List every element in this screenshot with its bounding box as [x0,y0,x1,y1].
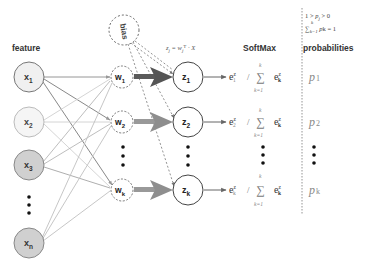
bias-node: bias [109,15,139,45]
logit-nodes: z1 z2 zk [173,62,203,205]
svg-text:k: k [259,62,262,68]
weight-nodes: w1 w2 wk [111,66,133,201]
svg-text:∑: ∑ [256,183,265,197]
probabilities-label: probabilities [303,43,354,53]
thick-arrow-icon [134,112,173,132]
ellipsis-dots-icon [121,145,125,167]
logit-node-zk: zk [173,175,203,205]
output-probabilities: p1 p2 pk [308,70,320,197]
ellipsis-dots-icon [186,145,190,167]
input-node-xn: xn [14,228,44,258]
weight-node-w2: w2 [111,111,133,133]
svg-text:/: / [247,185,250,195]
ellipsis-dots-icon [27,195,31,215]
svg-text:∑: ∑ [256,115,265,129]
svg-text:k: k [311,20,314,25]
input-node-x2: x2 [14,107,44,137]
softmax-formulas: ez1 / ∑ k k=1 ezk ez2 / ∑ k k=1 ezk [229,62,282,207]
svg-text:k=1: k=1 [254,201,263,207]
softmax-formula-1: ez1 / ∑ k k=1 ezk [229,62,282,93]
weight-logit-arrows [134,67,173,200]
softmax-label: SoftMax [243,43,276,53]
probability-constraints: 1 > pj > 0 k ∑k=1 pk = 1 [305,12,336,34]
thick-arrow-icon [134,180,173,200]
input-nodes: x1 x2 x3 xn [14,62,44,258]
logit-softmax-arrows [204,77,226,190]
svg-text:k: k [259,173,262,179]
weight-node-w1: w1 [111,66,133,88]
input-node-x3: x3 [14,150,44,180]
svg-text:∑k=1 pk = 1: ∑k=1 pk = 1 [305,25,336,34]
logit-node-z1: z1 [173,62,203,92]
feature-label: feature [12,43,41,53]
logit-node-z2: z2 [173,107,203,137]
ellipsis-dots-icon [261,145,265,165]
output-p2: p2 [308,115,320,129]
input-weight-connections [42,77,112,241]
softmax-formula-2: ez2 / ∑ k k=1 ezk [229,107,282,138]
svg-text:ezk: ezk [229,184,236,196]
svg-text:ez2: ez2 [229,116,236,128]
svg-text:ezk: ezk [274,116,282,128]
svg-text:k=1: k=1 [254,132,263,138]
svg-text:k=1: k=1 [254,87,263,93]
svg-text:/: / [247,117,250,127]
svg-text:k: k [259,107,262,113]
svg-text:∑: ∑ [256,70,265,84]
svg-text:ezk: ezk [274,71,282,83]
softmax-formula-k: ezk / ∑ k k=1 ezk [229,173,282,207]
ellipsis-dots-icon [312,145,316,165]
svg-text:ez1: ez1 [229,71,236,83]
output-pk: pk [308,183,320,197]
input-node-x1: x1 [14,62,44,92]
svg-text:/: / [247,72,250,82]
svg-text:1 > pj > 0: 1 > pj > 0 [305,12,330,21]
svg-text:ezk: ezk [274,184,282,196]
linear-formula: zj = wjT · X [165,44,196,53]
softmax-network-diagram: feature x1 [0,0,368,268]
weight-node-wk: wk [111,179,133,201]
output-p1: p1 [308,70,320,84]
